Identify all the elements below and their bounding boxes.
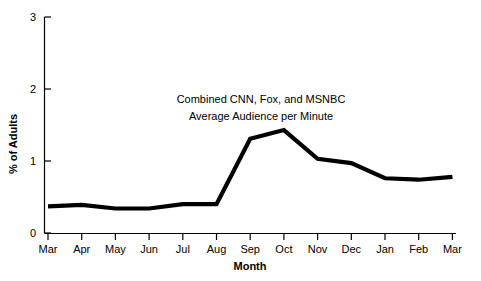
line-chart: 3 2 1 0 % of Adults Mar Apr May Jun Jul … [0,0,481,281]
x-tick-label-9: Dec [342,243,362,255]
x-tick-label-4: Jul [176,243,190,255]
chart-container: 3 2 1 0 % of Adults Mar Apr May Jun Jul … [0,0,481,281]
x-tick-label-8: Nov [308,243,328,255]
x-tick-label-1: Apr [73,243,90,255]
chart-annotation-line-1: Combined CNN, Fox, and MSNBC [177,93,346,105]
x-tick-label-5: Aug [207,243,227,255]
y-tick-label-1: 1 [30,155,36,167]
x-tick-label-6: Sep [240,243,260,255]
x-tick-label-2: May [105,243,126,255]
y-axis-title: % of Adults [7,114,19,174]
chart-background [0,0,481,281]
chart-annotation-line-2: Average Audience per Minute [189,110,333,122]
x-tick-label-7: Oct [275,243,292,255]
y-tick-label-3: 3 [30,11,36,23]
y-tick-label-2: 2 [30,83,36,95]
x-tick-label-0: Mar [39,243,58,255]
x-axis-title: Month [234,260,267,272]
x-tick-label-11: Feb [409,243,428,255]
x-tick-label-10: Jan [376,243,394,255]
x-tick-label-3: Jun [140,243,158,255]
x-tick-label-12: Mar [443,243,462,255]
y-tick-label-0: 0 [30,227,36,239]
